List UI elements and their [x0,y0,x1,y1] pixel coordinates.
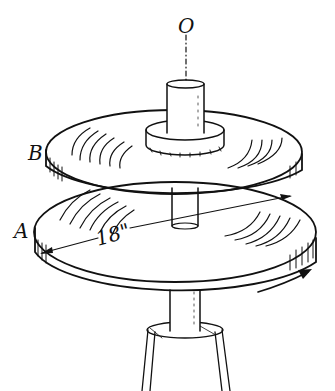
axis-label-o: O [178,14,194,38]
rotation-arrow-icon [258,269,312,292]
disc-b-label: B [27,141,43,165]
pedestal [142,322,230,391]
lower-shaft [170,290,200,331]
upper-shaft [167,80,204,134]
diameter-dimension [40,194,292,254]
disc-shaft-diagram: O 18" [0,0,335,391]
disc-a-label: A [12,219,28,243]
dimension-label: 18" [93,218,133,251]
